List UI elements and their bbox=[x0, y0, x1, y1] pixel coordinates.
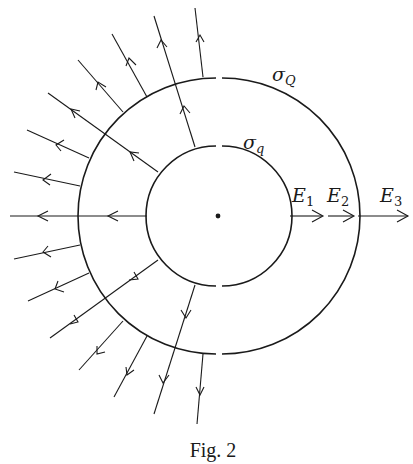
e-field-arrows bbox=[290, 210, 408, 222]
inner-sphere-left bbox=[146, 146, 216, 286]
sigma-q-label: σq bbox=[243, 131, 264, 156]
sigma-Q-label: σQ bbox=[272, 63, 296, 88]
e2-label: E2 bbox=[326, 184, 349, 209]
center-point bbox=[216, 214, 221, 219]
e3-label: E3 bbox=[379, 184, 402, 209]
concentric-spheres-diagram: σQ σq E1 E2 E3 Fig. 2 bbox=[0, 0, 413, 464]
e1-label: E1 bbox=[291, 184, 314, 209]
inner-sphere-right bbox=[222, 146, 292, 286]
figure-caption: Fig. 2 bbox=[190, 439, 237, 462]
field-lines bbox=[10, 8, 204, 424]
